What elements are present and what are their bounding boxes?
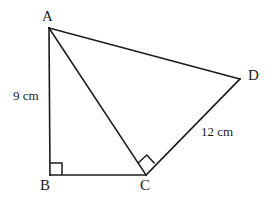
vertex-label-c: C — [140, 178, 150, 193]
vertex-label-a: A — [42, 9, 53, 24]
segment-ab — [49, 28, 50, 175]
vertex-label-d: D — [248, 68, 259, 83]
right-angle-marker-b — [50, 163, 62, 175]
length-label-ab: 9 cm — [13, 89, 39, 102]
vertex-label-b: B — [40, 178, 50, 193]
geometry-figure: A B C D 9 cm 12 cm — [0, 0, 276, 202]
right-angle-marker-c — [138, 155, 155, 164]
length-label-cd: 12 cm — [201, 125, 233, 138]
geometry-canvas — [0, 0, 276, 202]
